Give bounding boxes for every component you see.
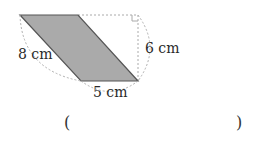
- height-label: 6 cm: [145, 41, 179, 55]
- base-label: 5 cm: [93, 85, 127, 99]
- slant-side-label: 8 cm: [18, 47, 52, 61]
- right-angle-mark: [132, 15, 138, 21]
- answer-close-paren: ): [236, 115, 242, 131]
- answer-open-paren: (: [64, 115, 70, 131]
- answer-blank[interactable]: [78, 115, 228, 133]
